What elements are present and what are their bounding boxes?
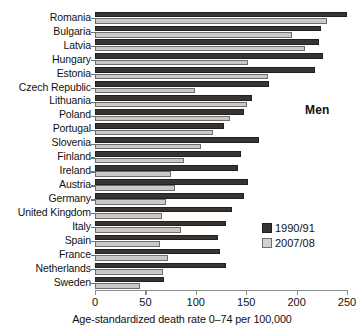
bar-1990-91 bbox=[95, 221, 226, 227]
category-label: Netherlands bbox=[0, 263, 91, 274]
bar-1990-91 bbox=[95, 137, 259, 143]
bar-1990-91 bbox=[95, 81, 269, 87]
x-axis-tick-label: 250 bbox=[338, 296, 356, 308]
category-label: Hungary bbox=[0, 54, 91, 65]
category-label: Poland bbox=[0, 109, 91, 120]
x-axis-tick-label: 200 bbox=[287, 296, 305, 308]
x-axis-tick bbox=[145, 290, 146, 295]
bar-2007-08 bbox=[95, 227, 181, 233]
bar-2007-08 bbox=[95, 283, 140, 289]
y-axis-tick bbox=[91, 171, 95, 172]
category-label: Slovenia bbox=[0, 137, 91, 148]
bar-2007-08 bbox=[95, 158, 184, 164]
y-axis-tick bbox=[91, 46, 95, 47]
bar-group bbox=[95, 137, 347, 151]
bar-group bbox=[95, 276, 347, 290]
bar-group bbox=[95, 123, 347, 137]
bar-group bbox=[95, 25, 347, 39]
category-label: Spain bbox=[0, 235, 91, 246]
bar-2007-08 bbox=[95, 74, 268, 80]
bar-group bbox=[95, 192, 347, 206]
bar-2007-08 bbox=[95, 130, 213, 136]
bar-1990-91 bbox=[95, 12, 347, 18]
bar-1990-91 bbox=[95, 26, 321, 32]
legend-swatch-icon bbox=[262, 223, 272, 233]
y-axis-tick bbox=[91, 227, 95, 228]
y-axis-tick bbox=[91, 88, 95, 89]
y-axis-tick bbox=[91, 213, 95, 214]
bar-2007-08 bbox=[95, 255, 168, 261]
bar-2007-08 bbox=[95, 171, 171, 177]
legend-label: 2007/08 bbox=[275, 237, 315, 249]
legend-item: 1990/91 bbox=[262, 222, 315, 234]
y-axis-tick bbox=[91, 32, 95, 33]
x-axis-tick-label: 150 bbox=[237, 296, 255, 308]
bar-group bbox=[95, 178, 347, 192]
bar-1990-91 bbox=[95, 109, 244, 115]
bar-1990-91 bbox=[95, 179, 248, 185]
y-axis-tick bbox=[91, 74, 95, 75]
bar-group bbox=[95, 81, 347, 95]
bar-1990-91 bbox=[95, 123, 224, 129]
bar-2007-08 bbox=[95, 116, 230, 122]
x-axis-title: Age-standardized death rate 0–74 per 100… bbox=[0, 313, 364, 325]
y-axis-tick bbox=[91, 199, 95, 200]
y-axis-tick bbox=[91, 116, 95, 117]
x-axis-tick bbox=[196, 290, 197, 295]
bar-chart: RomaniaBulgariaLatviaHungaryEstoniaCzech… bbox=[0, 0, 364, 336]
category-label: Estonia bbox=[0, 68, 91, 79]
bar-group bbox=[95, 164, 347, 178]
bar-1990-91 bbox=[95, 151, 241, 157]
bar-1990-91 bbox=[95, 67, 315, 73]
category-label: Lithuania bbox=[0, 95, 91, 106]
bar-1990-91 bbox=[95, 95, 252, 101]
bar-2007-08 bbox=[95, 18, 327, 24]
category-label: Austria bbox=[0, 179, 91, 190]
legend-label: 1990/91 bbox=[275, 222, 315, 234]
bar-2007-08 bbox=[95, 144, 201, 150]
bar-2007-08 bbox=[95, 241, 160, 247]
y-axis-tick bbox=[91, 255, 95, 256]
legend-swatch-icon bbox=[262, 238, 272, 248]
y-axis-tick bbox=[91, 185, 95, 186]
y-axis-tick bbox=[91, 102, 95, 103]
category-label: Germany bbox=[0, 193, 91, 204]
category-label: Ireland bbox=[0, 165, 91, 176]
category-label: United Kingdom bbox=[0, 207, 91, 218]
bar-1990-91 bbox=[95, 53, 323, 59]
bar-1990-91 bbox=[95, 39, 319, 45]
bar-1990-91 bbox=[95, 207, 232, 213]
legend-item: 2007/08 bbox=[262, 237, 315, 249]
category-label: France bbox=[0, 249, 91, 260]
y-axis-tick bbox=[91, 130, 95, 131]
bar-group bbox=[95, 53, 347, 67]
y-axis-category-labels: RomaniaBulgariaLatviaHungaryEstoniaCzech… bbox=[0, 11, 91, 290]
bar-2007-08 bbox=[95, 199, 166, 205]
x-axis-tick bbox=[246, 290, 247, 295]
bar-1990-91 bbox=[95, 235, 218, 241]
x-axis-tick bbox=[297, 290, 298, 295]
x-axis-line bbox=[95, 290, 347, 291]
category-label: Czech Republic bbox=[0, 82, 91, 93]
bar-1990-91 bbox=[95, 249, 220, 255]
category-label: Romania bbox=[0, 12, 91, 23]
category-label: Italy bbox=[0, 221, 91, 232]
bar-group bbox=[95, 262, 347, 276]
x-axis-tick-label: 0 bbox=[92, 296, 98, 308]
bar-1990-91 bbox=[95, 165, 238, 171]
y-axis-tick bbox=[91, 144, 95, 145]
y-axis-tick bbox=[91, 18, 95, 19]
bar-group bbox=[95, 206, 347, 220]
x-axis-tick bbox=[347, 290, 348, 295]
chart-legend: 1990/912007/08 bbox=[262, 222, 315, 252]
bar-group bbox=[95, 67, 347, 81]
bar-2007-08 bbox=[95, 213, 162, 219]
category-label: Finland bbox=[0, 151, 91, 162]
category-label: Latvia bbox=[0, 40, 91, 51]
bar-2007-08 bbox=[95, 60, 248, 66]
bar-1990-91 bbox=[95, 277, 164, 283]
y-axis-tick bbox=[91, 269, 95, 270]
y-axis-tick bbox=[91, 283, 95, 284]
bar-2007-08 bbox=[95, 88, 195, 94]
bar-2007-08 bbox=[95, 269, 163, 275]
